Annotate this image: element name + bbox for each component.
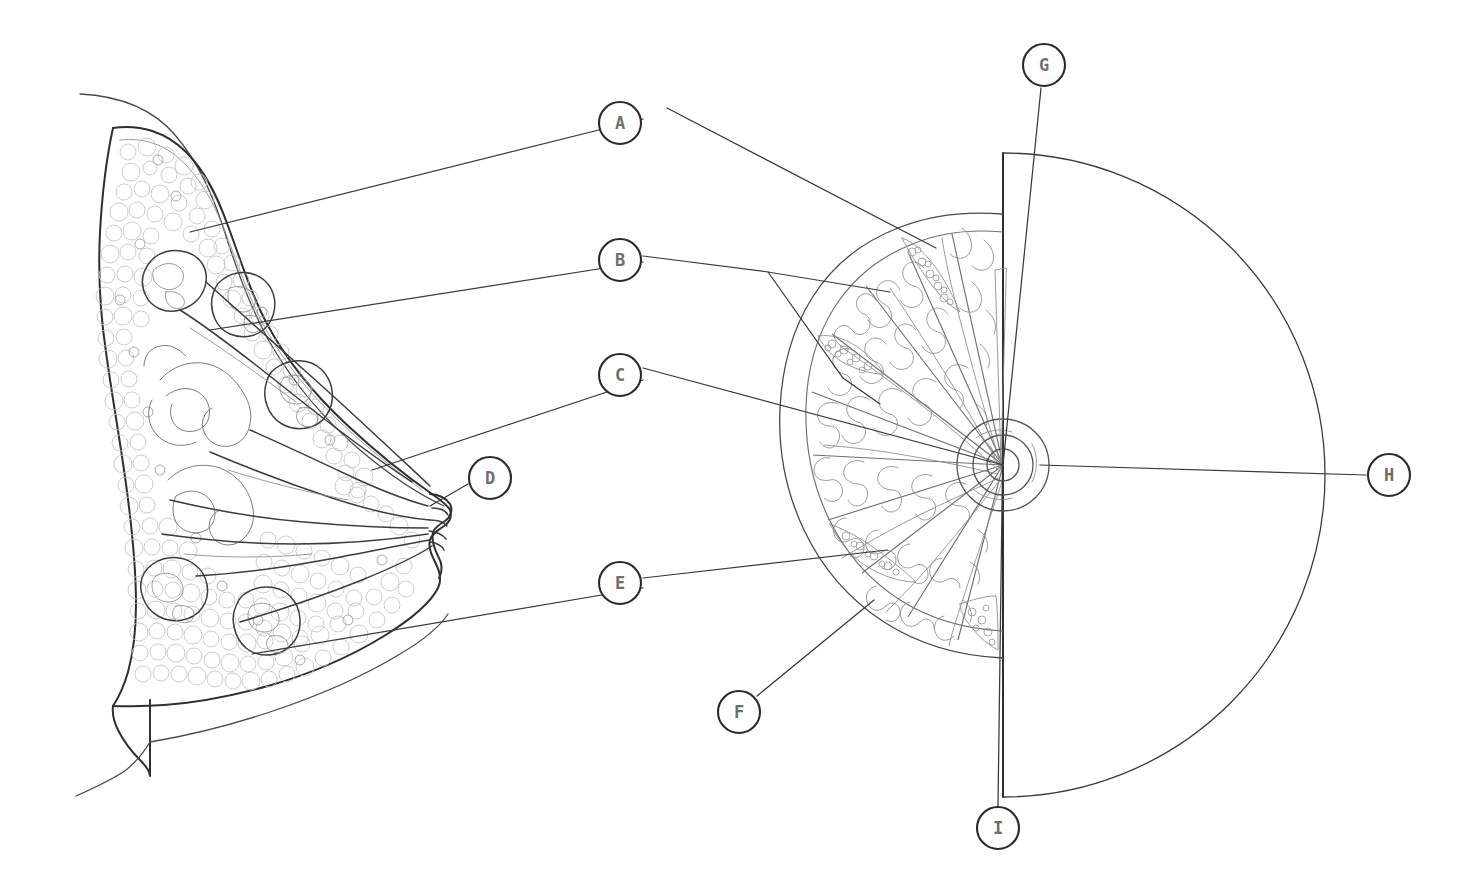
leader-line-c-frontal bbox=[643, 368, 1003, 465]
callout-g-letter: G bbox=[1039, 55, 1049, 75]
glandular-lobules-sagittal bbox=[141, 250, 333, 655]
callout-f[interactable]: F bbox=[718, 691, 760, 733]
callout-a[interactable]: A bbox=[599, 102, 641, 144]
lobe-divider-lines bbox=[812, 234, 1003, 640]
callout-e[interactable]: E bbox=[599, 562, 641, 604]
callout-h-letter: H bbox=[1384, 465, 1394, 485]
callout-f-letter: F bbox=[734, 702, 744, 722]
diagram-canvas: A B C D E F G bbox=[0, 0, 1467, 893]
lactiferous-ducts-frontal bbox=[824, 238, 1002, 646]
callout-c-letter: C bbox=[615, 365, 625, 385]
leader-line-b-branch bbox=[768, 272, 880, 404]
callout-markers[interactable]: A B C D E F G bbox=[469, 44, 1410, 849]
lobule-cluster-lower-left bbox=[141, 558, 208, 621]
leader-line-b-fork bbox=[643, 256, 890, 292]
chest-wall-fold-lower bbox=[76, 742, 150, 796]
callout-c[interactable]: C bbox=[599, 354, 641, 396]
sagittal-view bbox=[76, 94, 451, 796]
breast-anatomy-diagram: A B C D E F G bbox=[0, 0, 1467, 893]
callout-i-letter: I bbox=[993, 818, 1003, 838]
callout-a-letter: A bbox=[615, 113, 625, 133]
ductal-tree-lower bbox=[168, 465, 254, 545]
breast-skin-outline bbox=[113, 127, 451, 706]
leader-line-h bbox=[1040, 465, 1366, 475]
leader-line-a-frontal bbox=[667, 108, 936, 248]
leader-line-e-sagittal bbox=[252, 588, 643, 654]
adipose-tissue-texture bbox=[96, 138, 420, 690]
leader-line-e-frontal bbox=[643, 550, 887, 578]
leader-line-c-sagittal bbox=[372, 380, 643, 470]
leader-line-f bbox=[757, 600, 874, 696]
leader-line-b-sagittal bbox=[210, 262, 643, 330]
callout-h[interactable]: H bbox=[1368, 454, 1410, 496]
callout-b-letter: B bbox=[615, 250, 625, 270]
callout-d-letter: D bbox=[485, 468, 495, 488]
lobule-cluster-upper-left bbox=[143, 250, 207, 311]
callout-e-letter: E bbox=[615, 573, 625, 593]
callout-d[interactable]: D bbox=[469, 457, 511, 499]
callout-i[interactable]: I bbox=[977, 807, 1019, 849]
ductal-tree-mid bbox=[160, 363, 251, 447]
leader-line-g bbox=[1003, 88, 1041, 465]
callout-g[interactable]: G bbox=[1023, 44, 1065, 86]
subcutaneous-fascia-line bbox=[120, 139, 422, 490]
lactiferous-ducts-sagittal bbox=[162, 282, 432, 622]
frontal-view bbox=[780, 153, 1325, 797]
callout-b[interactable]: B bbox=[599, 239, 641, 281]
highlighted-duct-wedge bbox=[995, 268, 1006, 462]
leader-lines bbox=[190, 88, 1366, 806]
breast-skin-semicircle bbox=[1003, 153, 1325, 797]
leader-line-a-sagittal bbox=[190, 119, 643, 232]
